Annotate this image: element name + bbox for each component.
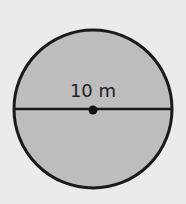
center-point (89, 106, 98, 115)
circle-diagram: 10 m (0, 0, 186, 204)
diameter-label: 10 m (70, 80, 116, 101)
